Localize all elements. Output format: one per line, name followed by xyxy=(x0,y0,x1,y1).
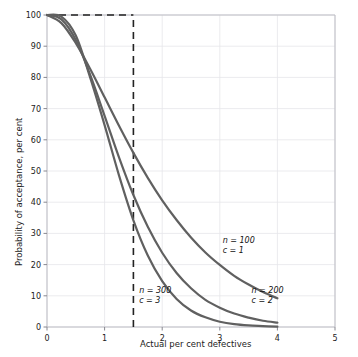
annotation-0-line2: c = 1 xyxy=(223,246,244,255)
svg-text:10: 10 xyxy=(31,292,41,301)
svg-text:0: 0 xyxy=(36,323,41,332)
y-axis-label: Probability of acceptance, per cent xyxy=(14,118,24,266)
svg-text:60: 60 xyxy=(31,136,41,145)
x-axis-label: Actual per cent defectives xyxy=(140,339,251,349)
svg-text:50: 50 xyxy=(31,167,41,176)
annotation-2-line1: n = 300 xyxy=(139,286,171,295)
annotation-2-line2: c = 3 xyxy=(139,296,160,305)
operating-characteristic-chart: 012345 0102030405060708090100 n = 100c =… xyxy=(0,0,358,357)
annotation-1-line1: n = 200 xyxy=(251,286,283,295)
chart-canvas: 012345 0102030405060708090100 n = 100c =… xyxy=(0,0,358,357)
annotation-1-line2: c = 2 xyxy=(251,296,272,305)
svg-text:0: 0 xyxy=(44,334,49,343)
svg-text:1: 1 xyxy=(102,334,107,343)
svg-text:100: 100 xyxy=(26,11,41,20)
svg-text:20: 20 xyxy=(31,261,41,270)
svg-text:80: 80 xyxy=(31,73,41,82)
svg-text:90: 90 xyxy=(31,42,41,51)
svg-text:5: 5 xyxy=(332,334,337,343)
annotation-0-line1: n = 100 xyxy=(223,236,255,245)
svg-text:70: 70 xyxy=(31,105,41,114)
y-axis-ticks: 0102030405060708090100 xyxy=(26,11,47,332)
svg-text:30: 30 xyxy=(31,229,41,238)
svg-text:40: 40 xyxy=(31,198,41,207)
svg-text:4: 4 xyxy=(275,334,280,343)
